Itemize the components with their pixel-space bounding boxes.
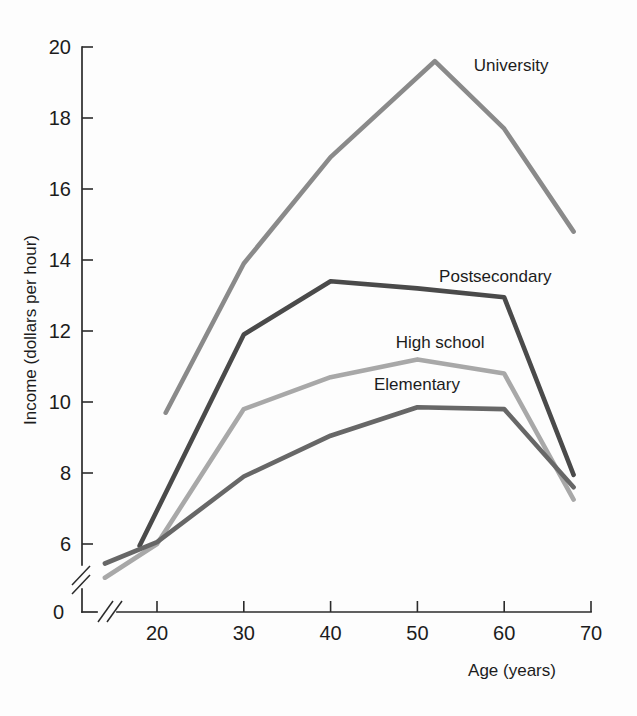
x-tick-group: 203040506070 (146, 601, 602, 644)
series-line-university (166, 61, 574, 413)
y-tick-label-6: 6 (60, 533, 71, 555)
series-line-elementary (105, 407, 574, 563)
series-label-postsecondary: Postsecondary (439, 267, 552, 286)
series-label-group: UniversityPostsecondaryHigh schoolElemen… (374, 56, 552, 395)
y-tick-label-0: 0 (53, 601, 64, 623)
y-tick-label-14: 14 (49, 249, 71, 271)
series-label-university: University (474, 56, 549, 75)
y-axis-title: Income (dollars per hour) (21, 235, 40, 425)
y-tick-label-8: 8 (60, 462, 71, 484)
x-tick-label-50: 50 (406, 622, 428, 644)
y-axis-break-slash-1 (72, 566, 90, 585)
y-tick-label-18: 18 (49, 107, 71, 129)
y-axis-break-slash-2 (72, 575, 90, 594)
x-tick-label-30: 30 (233, 622, 255, 644)
chart-container: 068101214161820 203040506070 UniversityP… (0, 0, 637, 716)
y-tick-label-12: 12 (49, 320, 71, 342)
x-tick-label-60: 60 (493, 622, 515, 644)
y-tick-label-20: 20 (49, 36, 71, 58)
x-axis-title: Age (years) (468, 661, 556, 680)
x-axis-break-slash-1 (98, 601, 113, 622)
y-tick-label-10: 10 (49, 391, 71, 413)
y-axis (72, 47, 90, 612)
y-tick-group: 068101214161820 (49, 36, 93, 623)
x-tick-label-20: 20 (146, 622, 168, 644)
x-tick-label-70: 70 (580, 622, 602, 644)
series-label-high-school: High school (396, 333, 485, 352)
series-group (105, 61, 574, 578)
y-tick-label-16: 16 (49, 178, 71, 200)
series-label-elementary: Elementary (374, 375, 460, 394)
line-chart-svg: 068101214161820 203040506070 UniversityP… (0, 0, 637, 716)
x-axis (82, 601, 591, 622)
x-tick-label-40: 40 (319, 622, 341, 644)
